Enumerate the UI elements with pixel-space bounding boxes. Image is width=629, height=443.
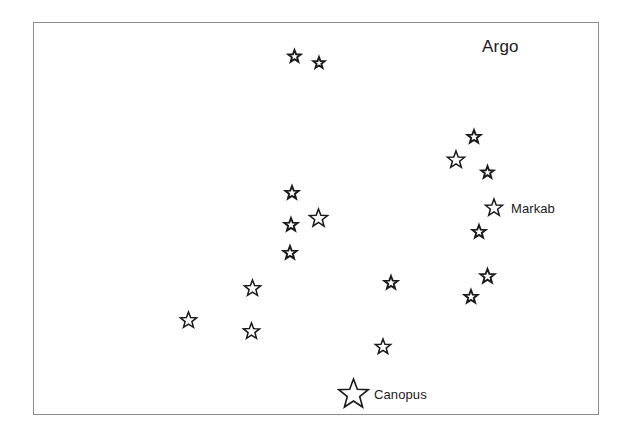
chart-frame-border bbox=[33, 22, 599, 415]
label-canopus: Canopus bbox=[374, 388, 427, 401]
label-argo: Argo bbox=[482, 38, 519, 55]
label-markab: Markab bbox=[511, 202, 555, 215]
star-chart-figure: ArgoMarkabCanopus bbox=[0, 0, 629, 443]
